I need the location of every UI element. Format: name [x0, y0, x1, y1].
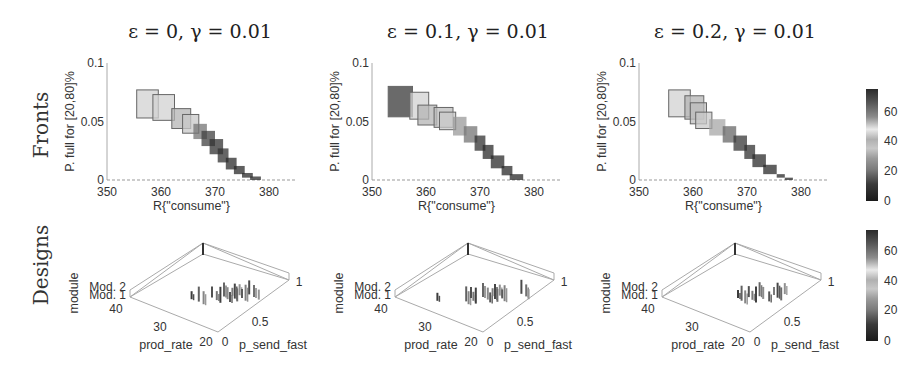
x-axis-label: R{"consume"}: [153, 199, 230, 213]
y-tick: 0.1: [619, 56, 636, 70]
front-point: [510, 174, 524, 180]
y-tick: 0: [487, 335, 494, 349]
x-tick: 20: [199, 335, 213, 349]
y-tick: 1: [828, 275, 835, 289]
x-tick: 380: [524, 185, 544, 199]
svg-text:60: 60: [884, 244, 898, 258]
x-tick: 380: [791, 185, 811, 199]
front-point: [785, 178, 793, 180]
y-axis-label: P. full for [20,80]%: [595, 71, 609, 172]
colorbar-designs: 0 20 40 60: [866, 230, 898, 348]
y-tick: 0: [97, 173, 104, 187]
y-tick: 0.1: [352, 56, 369, 70]
front-point: [234, 166, 245, 174]
x-tick: 360: [683, 185, 703, 199]
x-tick: 370: [470, 185, 490, 199]
svg-text:20: 20: [884, 303, 898, 317]
y-tick: 0.1: [87, 56, 104, 70]
z-axis-label: module: [67, 272, 81, 313]
y-tick: 0.05: [81, 115, 105, 129]
y-axis-label: p_send_fast: [504, 338, 573, 352]
y-tick: 0: [222, 335, 229, 349]
x-axis-label: prod_rate: [671, 338, 725, 352]
y-tick: 1: [561, 275, 568, 289]
y-tick: 0.5: [517, 315, 534, 329]
svg-text:20: 20: [884, 164, 898, 178]
y-axis-label: P. full for [20,80]%: [63, 71, 77, 172]
x-tick: 350: [362, 185, 382, 199]
design-plot-1: Mod. 2Mod. 140302000.51prod_ratep_send_f…: [67, 243, 308, 352]
figure: Fronts Designs ε = 0, γ = 0.01 ε = 0.1, …: [0, 0, 920, 381]
z-tick: Mod. 1: [354, 288, 391, 302]
front-point: [502, 166, 513, 175]
panel-title-3: ε = 0.2, γ = 0.01: [654, 20, 816, 42]
x-tick: 350: [629, 185, 649, 199]
x-tick: 370: [205, 185, 225, 199]
y-tick: 0.5: [784, 315, 801, 329]
design-plot-3: Mod. 2Mod. 140302000.51prod_ratep_send_f…: [599, 243, 840, 352]
z-axis-label: module: [332, 272, 346, 313]
front-point: [388, 86, 412, 116]
x-tick: 370: [737, 185, 757, 199]
front-point: [777, 174, 785, 178]
x-tick: 40: [109, 302, 123, 316]
z-tick: Mod. 1: [89, 288, 126, 302]
y-axis-label: P. full for [20,80]%: [328, 71, 342, 172]
front-point: [763, 165, 777, 174]
y-tick: 1: [296, 275, 303, 289]
svg-text:40: 40: [884, 134, 898, 148]
svg-text:40: 40: [884, 274, 898, 288]
y-tick: 0.05: [613, 115, 637, 129]
svg-text:60: 60: [884, 105, 898, 119]
svg-text:0: 0: [884, 194, 891, 208]
x-tick: 360: [151, 185, 171, 199]
y-axis-label: p_send_fast: [239, 338, 308, 352]
colorbar-fronts: 0 20 40 60: [866, 89, 898, 208]
x-tick: 30: [685, 320, 699, 334]
panel-title-1: ε = 0, γ = 0.01: [128, 20, 272, 42]
front-plot-3: 35036037038000.050.1R{"consume"}P. full …: [595, 56, 828, 213]
x-tick: 40: [641, 302, 655, 316]
svg-text:0: 0: [884, 334, 891, 348]
x-tick: 360: [416, 185, 436, 199]
z-axis-label: module: [599, 272, 613, 313]
x-tick: 20: [464, 335, 478, 349]
y-tick: 0: [362, 173, 369, 187]
design-plot-2: Mod. 2Mod. 140302000.51prod_ratep_send_f…: [332, 243, 573, 352]
front-plot-1: 35036037038000.050.1R{"consume"}P. full …: [63, 56, 296, 213]
x-axis-label: prod_rate: [139, 338, 193, 352]
x-tick: 350: [97, 185, 117, 199]
panel-title-2: ε = 0.1, γ = 0.01: [387, 20, 549, 42]
y-tick: 0: [629, 173, 636, 187]
x-tick: 30: [153, 320, 167, 334]
x-axis-label: R{"consume"}: [418, 199, 495, 213]
x-tick: 380: [259, 185, 279, 199]
row-label-designs: Designs: [29, 225, 53, 305]
front-point: [153, 95, 175, 121]
y-axis-label: p_send_fast: [771, 338, 840, 352]
row-label-fronts: Fronts: [29, 92, 53, 159]
z-tick: Mod. 1: [621, 288, 658, 302]
x-axis-label: R{"consume"}: [685, 199, 762, 213]
front-point: [250, 176, 261, 180]
x-tick: 40: [374, 302, 388, 316]
y-tick: 0.5: [252, 315, 269, 329]
x-tick: 20: [731, 335, 745, 349]
y-tick: 0.05: [346, 115, 370, 129]
front-plot-2: 35036037038000.050.1R{"consume"}P. full …: [328, 56, 561, 213]
x-axis-label: prod_rate: [404, 338, 458, 352]
y-tick: 0: [754, 335, 761, 349]
x-tick: 30: [418, 320, 432, 334]
